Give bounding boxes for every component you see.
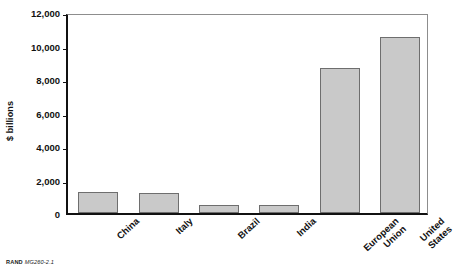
x-axis-category-label: Brazil [236,216,262,241]
bar-series [68,15,427,213]
bar-slot [139,15,179,213]
x-axis-category-label: China [115,216,141,242]
y-axis-tick-label: 0 [14,210,60,220]
bar [78,192,118,213]
bar-slot [78,15,118,213]
x-axis-category-label: Italy [174,216,195,237]
y-axis-tick-labels: 02,0004,0006,0008,00010,00012,000 [14,0,60,272]
x-axis-category-label: India [295,216,318,239]
bar [259,205,299,213]
y-axis-tick-label: 4,000 [14,143,60,153]
bar [139,193,179,213]
y-axis-tick-label: 8,000 [14,76,60,86]
bar-slot [320,15,360,213]
figure-source-note: RANDMG260-2.1 [6,259,54,265]
bar [320,68,360,213]
y-axis-tick-label: 2,000 [14,177,60,187]
y-axis-tick-label: 6,000 [14,110,60,120]
bar-slot [199,15,239,213]
rand-brand-label: RAND [6,259,23,265]
plot-area [66,14,428,215]
y-axis-tick-label: 12,000 [14,9,60,19]
figure-number-label: MG260-2.1 [25,259,54,265]
x-axis-category-labels: ChinaItalyBrazilIndiaEuropeanUnionUnited… [66,216,428,270]
x-axis-category-label: UnitedStates [418,216,454,252]
bar [380,37,420,213]
bar-slot [380,15,420,213]
x-axis-category-label: EuropeanUnion [361,216,407,261]
bar-slot [259,15,299,213]
bar [199,205,239,213]
y-axis-tick-label: 10,000 [14,43,60,53]
